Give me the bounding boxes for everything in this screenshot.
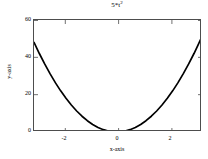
x-axis-label: x-axis <box>33 145 201 153</box>
x-tick-labels: -2 0 2 <box>0 135 208 145</box>
y-tick-label: 60 <box>9 16 31 22</box>
chart-title-text: 5*t <box>111 1 120 9</box>
x-tick-label: 0 <box>107 135 127 141</box>
figure-canvas: 5*t2 60 40 <box>0 0 208 159</box>
x-tick-label: -2 <box>54 135 74 141</box>
data-series-line <box>34 36 201 131</box>
plot-area <box>33 19 201 131</box>
x-tick-label: 2 <box>160 135 180 141</box>
plot-svg <box>34 20 201 131</box>
y-axis-label: y-axis <box>6 49 13 95</box>
y-tick-label: 0 <box>9 127 31 133</box>
y-axis-ticks <box>34 21 201 132</box>
chart-title: 5*t2 <box>33 1 201 10</box>
chart-title-exponent: 2 <box>120 0 123 5</box>
